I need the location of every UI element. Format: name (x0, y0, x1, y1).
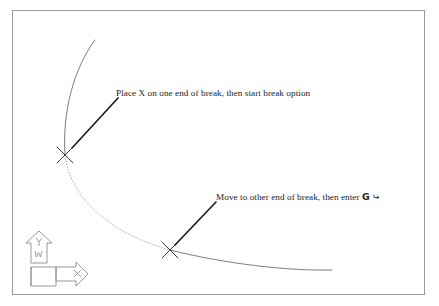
arc-solid-upper (65, 40, 95, 155)
ucs-icon (26, 231, 88, 286)
annotation-move-text: Move to other end of break, then enter (216, 192, 362, 202)
ucs-w-label-icon (35, 251, 42, 257)
arc-dashed-break (65, 155, 170, 250)
ucs-base-box (31, 267, 56, 286)
ucs-x-arrow-icon (56, 262, 88, 286)
annotation-place-x: Place X on one end of break, then start … (116, 89, 310, 98)
leader-line-move-other-end (175, 202, 216, 245)
break-key-glyph: G (362, 191, 370, 202)
annotation-move-other-end: Move to other end of break, then enter G… (216, 192, 379, 202)
figure-canvas: Place X on one end of break, then start … (0, 0, 439, 306)
ucs-y-arrow-icon (26, 231, 52, 263)
figure-border (13, 11, 425, 295)
leader-line-place-x (72, 98, 118, 148)
ucs-x-label-icon (74, 270, 81, 277)
arc-solid-lower (170, 250, 332, 270)
ucs-y-label-icon (36, 238, 42, 246)
enter-key-icon: ↵ (372, 193, 380, 202)
drawing-area (0, 0, 439, 306)
